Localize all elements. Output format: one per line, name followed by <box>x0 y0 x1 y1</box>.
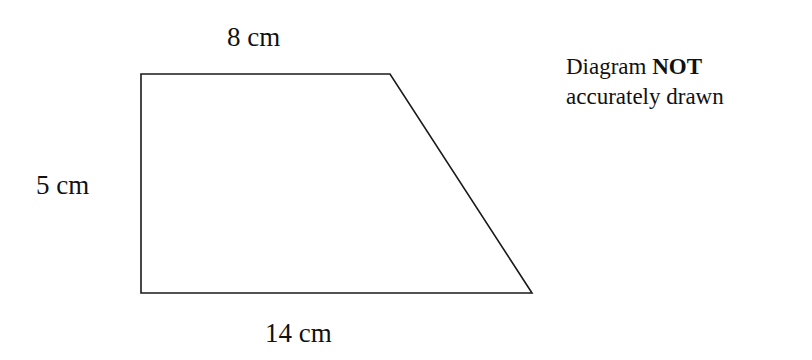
bottom-side-label: 14 cm <box>265 320 332 347</box>
note-line-1: Diagram NOT <box>566 52 724 82</box>
trapezium-shape <box>141 74 532 293</box>
note-prefix: Diagram <box>566 54 646 79</box>
not-to-scale-note: Diagram NOT accurately drawn <box>566 52 724 112</box>
note-line-2: accurately drawn <box>566 82 724 112</box>
top-side-label: 8 cm <box>227 24 280 51</box>
note-emphasis: NOT <box>652 54 702 79</box>
left-side-label: 5 cm <box>36 172 89 199</box>
